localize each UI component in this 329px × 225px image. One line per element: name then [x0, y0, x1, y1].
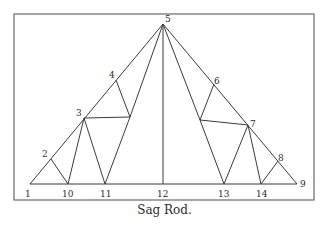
node-labels: 1234567891011121314 — [25, 14, 306, 199]
node-label-6: 6 — [214, 76, 220, 86]
node-label-10: 10 — [62, 189, 74, 199]
node-label-4: 4 — [109, 70, 115, 80]
truss-member-5-a — [130, 24, 163, 117]
node-label-3: 3 — [76, 108, 82, 118]
truss-member-5-b — [163, 24, 200, 120]
node-label-14: 14 — [256, 189, 268, 199]
truss-member-a-11 — [105, 117, 130, 184]
figure-caption: Sag Rod. — [0, 203, 329, 217]
node-label-11: 11 — [100, 189, 111, 199]
node-label-5: 5 — [165, 14, 171, 24]
truss-member-b-7 — [200, 120, 248, 125]
node-label-13: 13 — [218, 189, 230, 199]
truss-member-6-b — [200, 84, 214, 120]
node-label-8: 8 — [278, 153, 284, 163]
node-label-7: 7 — [250, 119, 256, 129]
node-label-2: 2 — [42, 149, 48, 159]
truss-member-7-13 — [224, 125, 248, 184]
figure-frame — [14, 14, 314, 200]
truss-member-3-11 — [84, 118, 105, 184]
truss-diagram: 1234567891011121314 — [0, 0, 329, 225]
truss-members — [30, 24, 297, 184]
node-label-9: 9 — [300, 179, 306, 189]
truss-member-3-a — [84, 117, 130, 118]
truss-member-2-10 — [51, 159, 68, 184]
truss-member-b-13 — [200, 120, 224, 184]
node-label-1: 1 — [25, 189, 31, 199]
truss-member-5-9 — [163, 24, 297, 184]
truss-member-8-14 — [261, 161, 278, 184]
node-label-12: 12 — [157, 189, 168, 199]
truss-member-1-5 — [30, 24, 163, 184]
truss-diagram-figure: 1234567891011121314 Sag Rod. — [0, 0, 329, 225]
truss-member-4-a — [116, 80, 130, 117]
